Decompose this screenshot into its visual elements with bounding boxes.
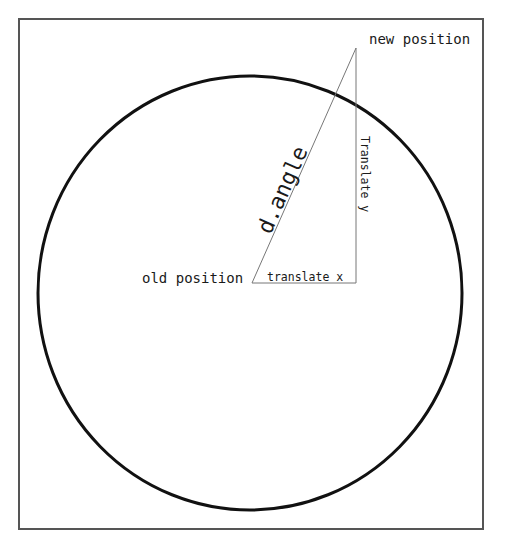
frame-border <box>19 19 483 529</box>
rotation-circle <box>38 76 462 510</box>
diagram-canvas <box>0 0 510 546</box>
old-position-label: old position <box>142 270 243 286</box>
new-position-label: new position <box>369 31 470 47</box>
translate-x-label: translate x <box>267 271 343 284</box>
translate-y-label: Translate y <box>358 136 371 212</box>
